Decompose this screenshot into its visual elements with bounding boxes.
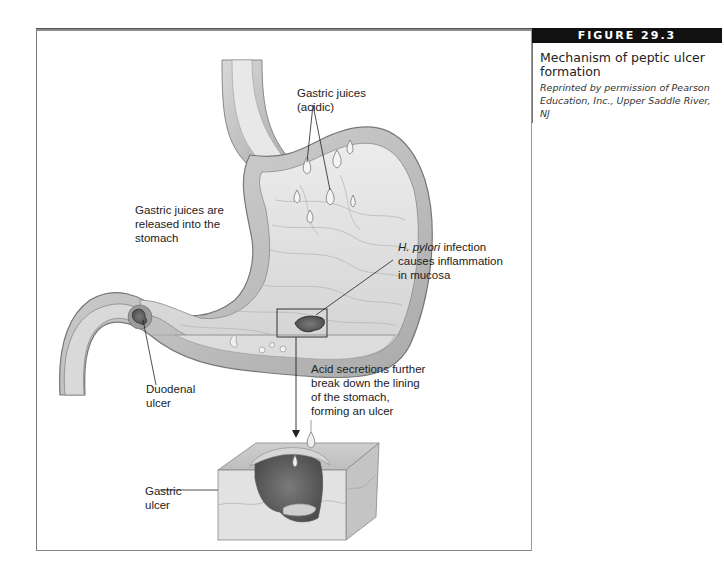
label-line: break down the lining (311, 376, 425, 390)
label-gastric-juices-released: Gastric juices are released into the sto… (135, 203, 224, 245)
label-h-pylori: H. pylori infection causes inflammation … (398, 240, 503, 282)
label-line: Duodenal (146, 382, 195, 396)
label-line: H. pylori infection (398, 240, 503, 254)
label-line: Gastric (145, 484, 181, 498)
label-line: (acidic) (297, 100, 366, 114)
label-duodenal-ulcer: Duodenal ulcer (146, 382, 195, 410)
label-line: of the stomach, (311, 390, 425, 404)
h-pylori-rest: infection (440, 241, 486, 253)
label-line: ulcer (145, 498, 181, 512)
label-line: ulcer (146, 396, 195, 410)
label-line: Gastric juices (297, 86, 366, 100)
label-line: Gastric juices are (135, 203, 224, 217)
duodenal-ulcer (128, 305, 152, 329)
label-acid-secretions: Acid secretions further break down the l… (311, 362, 425, 418)
label-line: stomach (135, 231, 224, 245)
h-pylori-italic: H. pylori (398, 241, 440, 253)
tissue-block (218, 420, 379, 540)
label-gastric-juices-acidic: Gastric juices (acidic) (297, 86, 366, 114)
label-line: in mucosa (398, 268, 503, 282)
label-line: released into the (135, 217, 224, 231)
label-line: forming an ulcer (311, 404, 425, 418)
label-line: Acid secretions further (311, 362, 425, 376)
label-gastric-ulcer: Gastric ulcer (145, 484, 181, 512)
label-line: causes inflammation (398, 254, 503, 268)
stomach-body (60, 127, 433, 395)
